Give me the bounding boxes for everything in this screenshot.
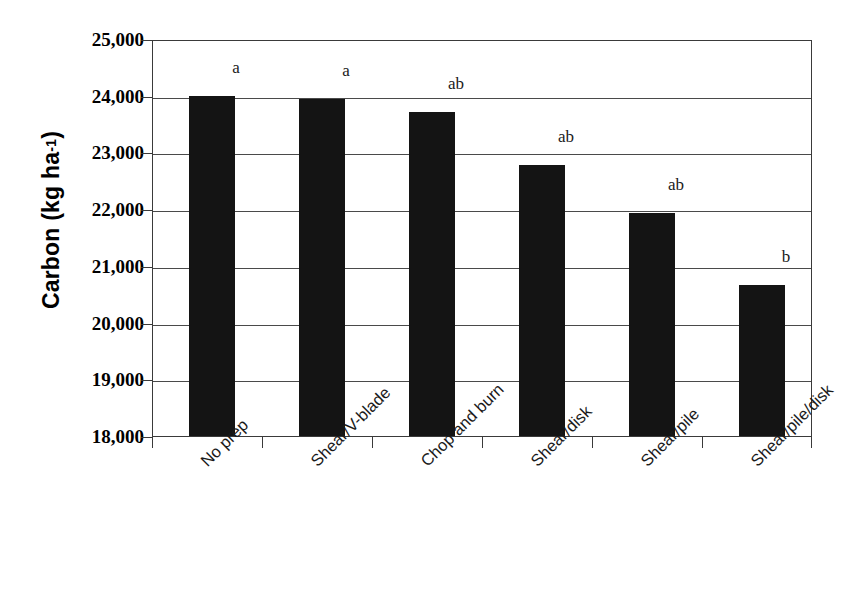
x-axis-tick-mark bbox=[152, 437, 153, 448]
significance-letter: a bbox=[216, 58, 256, 78]
significance-letter: ab bbox=[436, 74, 476, 94]
y-axis-tick-mark bbox=[141, 380, 152, 381]
y-axis-tick-mark bbox=[141, 153, 152, 154]
significance-letter: ab bbox=[656, 175, 696, 195]
bar bbox=[519, 165, 565, 436]
y-axis-tick-mark bbox=[141, 97, 152, 98]
y-axis-tick-label: 23,000 bbox=[50, 142, 144, 164]
x-axis-tick-mark bbox=[592, 437, 593, 448]
bar-chart-figure: Carbon (kg ha-1) 18,00019,00020,00021,00… bbox=[0, 0, 841, 590]
x-axis-tick-marks bbox=[152, 437, 812, 449]
significance-letter: a bbox=[326, 61, 366, 81]
x-axis-tick-mark bbox=[482, 437, 483, 448]
y-axis-tick-labels: 18,00019,00020,00021,00022,00023,00024,0… bbox=[44, 40, 144, 437]
bar bbox=[629, 213, 675, 436]
gridline bbox=[153, 268, 811, 269]
y-axis-tick-label: 25,000 bbox=[50, 29, 144, 51]
bar bbox=[409, 112, 455, 436]
x-axis-tick-mark bbox=[811, 437, 812, 448]
bar bbox=[739, 285, 785, 436]
x-axis-tick-mark bbox=[702, 437, 703, 448]
plot-area: aaabababb bbox=[152, 40, 812, 437]
y-axis-tick-mark bbox=[141, 267, 152, 268]
bar bbox=[299, 99, 345, 436]
y-axis-tick-label: 22,000 bbox=[50, 199, 144, 221]
x-axis-tick-mark bbox=[372, 437, 373, 448]
significance-letter: ab bbox=[546, 127, 586, 147]
y-axis-tick-label: 18,000 bbox=[50, 426, 144, 448]
x-axis-tick-mark bbox=[262, 437, 263, 448]
y-axis-tick-mark bbox=[141, 210, 152, 211]
gridline bbox=[153, 154, 811, 155]
y-axis-tick-mark bbox=[141, 437, 152, 438]
y-axis-tick-mark bbox=[141, 40, 152, 41]
x-axis-tick-labels: No prepShear/V-bladeChop and burnShear/d… bbox=[152, 449, 841, 590]
y-axis-tick-label: 19,000 bbox=[50, 369, 144, 391]
y-axis-tick-label: 21,000 bbox=[50, 256, 144, 278]
gridline bbox=[153, 98, 811, 99]
y-axis-tick-label: 20,000 bbox=[50, 313, 144, 335]
bar bbox=[189, 96, 235, 436]
y-axis-tick-label: 24,000 bbox=[50, 86, 144, 108]
significance-letter: b bbox=[766, 247, 806, 267]
gridline bbox=[153, 325, 811, 326]
y-axis-tick-mark bbox=[141, 324, 152, 325]
gridline bbox=[153, 381, 811, 382]
gridline bbox=[153, 211, 811, 212]
